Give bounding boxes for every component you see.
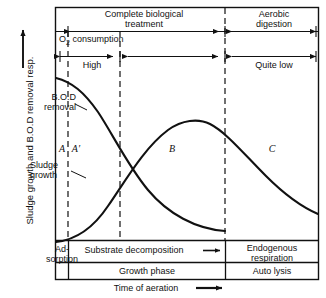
y-axis-label: Sludge growth and B.O.D removal resp. xyxy=(24,51,35,231)
zone-label-a: A xyxy=(59,144,65,154)
band-line-2: treatment xyxy=(125,19,163,29)
o2-consumption-label: O2 consumption xyxy=(59,34,123,48)
sludge-label-line-1: Sludge xyxy=(30,160,58,170)
endogenous-line-1: Endogenous xyxy=(247,243,298,253)
cell-auto-lysis: Auto lysis xyxy=(253,266,292,276)
o2-title: O xyxy=(59,34,66,44)
curve-label-sludge-growth: Sludge growth xyxy=(30,160,76,180)
o2-level-quite-low: Quite low xyxy=(255,60,293,70)
cell-growth-phase: Growth phase xyxy=(119,266,175,276)
curve-sludge-growth xyxy=(56,121,318,242)
curve-bod-removal xyxy=(56,78,225,231)
cell-adsorption: Ad- sorption xyxy=(46,244,78,264)
sludge-label-line-2: growth xyxy=(30,170,57,180)
x-axis-label: Time of aeration xyxy=(114,283,179,293)
cell-substrate-decomposition: Substrate decomposition xyxy=(84,245,183,255)
zone-label-c: C xyxy=(269,144,276,154)
adsorption-line-1: Ad- xyxy=(55,244,69,254)
figure-root: Sludge growth and B.O.D removal resp. Co… xyxy=(0,0,326,298)
o2-level-high: High xyxy=(83,60,102,70)
band-line-2: digestion xyxy=(256,19,292,29)
zone-label-b: B xyxy=(169,144,175,154)
bod-leader-line xyxy=(75,104,87,110)
bod-label-line-1: B.O.D xyxy=(51,92,76,102)
band-label-complete-biological-treatment: Complete biological treatment xyxy=(105,9,184,29)
adsorption-line-2: sorption xyxy=(46,254,78,264)
endogenous-line-2: respiration xyxy=(251,253,293,263)
o2-title-rest: consumption xyxy=(70,34,124,44)
cell-endogenous-respiration: Endogenous respiration xyxy=(247,243,298,263)
band-line-1: Aerobic xyxy=(259,9,290,19)
band-line-1: Complete biological xyxy=(105,9,184,19)
zone-label-a-prime: A′ xyxy=(72,144,80,154)
plot-frame xyxy=(56,8,319,280)
band-label-aerobic-digestion: Aerobic digestion xyxy=(256,9,292,29)
curve-label-bod-removal: B.O.D removal xyxy=(34,92,76,112)
bod-label-line-2: removal xyxy=(44,102,76,112)
